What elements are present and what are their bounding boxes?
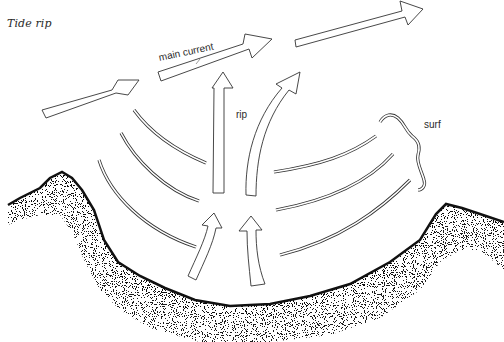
surf-brace [380, 115, 425, 190]
rip-arrows-upper [212, 72, 300, 196]
wave-lines-right [274, 136, 410, 255]
main-current-arrows [42, 1, 423, 118]
diagram-title: Tide rip [7, 17, 52, 30]
diagram-canvas [0, 0, 504, 342]
rip-arrow-lower-right [239, 216, 265, 286]
current-arrow-right [295, 1, 423, 47]
current-arrow-left [42, 80, 139, 118]
rip-arrow-straight [212, 72, 233, 193]
surf-label: surf [424, 119, 441, 130]
rip-label: rip [236, 109, 247, 120]
wave-lines-left [99, 110, 206, 247]
tide-rip-diagram: Tide rip main current rip surf [0, 0, 504, 342]
rip-arrows-lower [188, 213, 265, 286]
rip-arrow-curved [246, 72, 300, 196]
